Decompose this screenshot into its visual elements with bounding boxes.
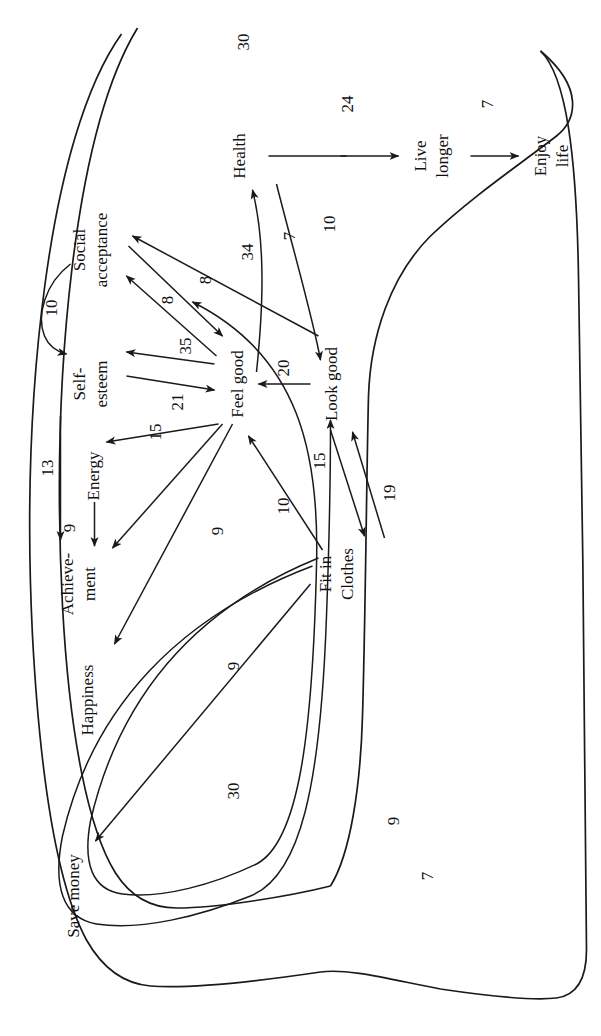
node-live-longer-line2[interactable]: longer [432, 134, 451, 178]
edge-fit-lookgood-15 [330, 430, 364, 536]
edge-feelgood-selfesteem [126, 352, 214, 364]
weight-label-9-feelgood-happiness: 9 [223, 662, 242, 671]
edge-fit-social [87, 302, 318, 895]
weight-label-7-fit-selfesteem: 7 [417, 871, 436, 880]
node-feel-good[interactable]: Feel good [227, 350, 246, 418]
right-lower-boundary [368, 51, 572, 396]
weight-label-7-feelgood-health: 7 [279, 231, 298, 240]
weight-label-13-selfesteem-achievement: 13 [37, 460, 56, 477]
node-live-longer-line1[interactable]: Live [410, 140, 429, 171]
node-look-good[interactable]: Look good [321, 346, 340, 421]
node-happiness[interactable]: Happiness [77, 665, 96, 736]
node-achievement-line1[interactable]: Achieve- [57, 553, 76, 616]
weight-label-10-health-lookgood: 10 [319, 216, 338, 233]
causal-map-svg: Save money Happiness Achieve- ment Energ… [0, 0, 601, 1036]
lower-region-boundary [330, 396, 368, 886]
edge-feelgood-achievement [112, 424, 222, 548]
outer-boundary [29, 34, 586, 999]
diagram-canvas: Save money Happiness Achieve- ment Energ… [0, 0, 601, 1036]
weight-label-34-lookgood-social: 34 [237, 243, 256, 261]
weight-label-35-feelgood-selfesteem: 35 [175, 338, 194, 355]
weight-label-15-feelgood-energy: 15 [145, 424, 164, 441]
node-fit-in-clothes-line2[interactable]: Clothes [337, 548, 356, 600]
weight-label-20-lookgood-feelgood: 20 [273, 360, 292, 377]
edge-feelgood-health [252, 190, 262, 372]
node-achievement-line2[interactable]: ment [79, 567, 98, 601]
weight-label-9-feelgood-achievement: 9 [207, 527, 226, 536]
weight-label-8-feelgood-social: 8 [157, 296, 176, 305]
node-enjoy-life-line2[interactable]: life [552, 145, 571, 168]
node-social-acceptance-line1[interactable]: Social [69, 228, 88, 271]
node-enjoy-life-line1[interactable]: Enjoy [530, 135, 549, 176]
weight-label-21-selfesteem-feelgood: 21 [167, 394, 186, 411]
weight-label-10-social-selfesteem: 10 [41, 300, 60, 317]
edge-fit-savemoney [95, 584, 310, 841]
weight-label-24-health-livelonger: 24 [337, 95, 356, 113]
boundary-group [29, 28, 586, 999]
node-health[interactable]: Health [229, 133, 248, 179]
node-energy[interactable]: Energy [83, 451, 102, 500]
weight-label-7-livelonger-enjoylife: 7 [477, 99, 496, 108]
node-label-group: Save money Happiness Achieve- ment Energ… [57, 133, 571, 938]
node-fit-in-clothes-line1[interactable]: Fit in [315, 555, 334, 592]
edge-selfesteem-feelgood [126, 376, 214, 390]
node-self-esteem-line2[interactable]: esteem [91, 360, 110, 407]
weight-label-8-social-feelgood: 8 [195, 276, 214, 285]
weight-label-19-lookgood-fit: 19 [379, 485, 398, 502]
diagram-page: Save money Happiness Achieve- ment Energ… [0, 0, 601, 1036]
node-social-acceptance-line2[interactable]: acceptance [91, 213, 110, 288]
weight-label-30-fit-savemoney: 30 [223, 783, 242, 800]
node-save-money[interactable]: Save money [63, 854, 82, 938]
weight-label-15-fit-lookgood: 15 [309, 453, 328, 470]
edge-group [41, 156, 518, 926]
weight-label-10-fit-feelgood: 10 [273, 498, 292, 515]
weight-label-9-energy-achievement: 9 [59, 524, 78, 533]
node-self-esteem-line1[interactable]: Self- [69, 367, 88, 400]
weight-label-9-fit-social: 9 [383, 817, 402, 826]
weight-label-30-boundary: 30 [233, 34, 252, 51]
